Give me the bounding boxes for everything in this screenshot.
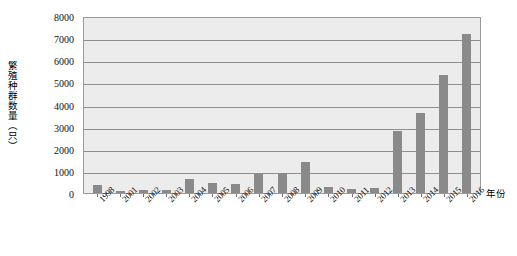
bar-slot: [432, 18, 455, 193]
bar-slot: [201, 18, 224, 193]
bar: [278, 173, 287, 193]
bar-slot: [363, 18, 386, 193]
bar: [393, 131, 402, 193]
y-axis-tick-label: 4000: [54, 100, 74, 111]
bar: [347, 189, 356, 193]
bar-slot: [294, 18, 317, 193]
y-axis-tick-label: 5000: [54, 78, 74, 89]
y-axis-tick-label: 2000: [54, 144, 74, 155]
y-axis-tick-label: 0: [69, 189, 74, 200]
bar-slot: [271, 18, 294, 193]
x-axis-tick-labels: 1998200120022003200420052006200720082009…: [83, 194, 481, 244]
chart-figure: 繁殖种群数量（只） 010002000300040005000600070008…: [0, 0, 517, 256]
bar: [254, 174, 263, 193]
plot-area: [83, 17, 481, 194]
y-axis-tick-label: 1000: [54, 166, 74, 177]
bar-slot: [409, 18, 432, 193]
bar: [231, 184, 240, 193]
bar-slot: [178, 18, 201, 193]
bar: [439, 75, 448, 193]
bar: [416, 113, 425, 193]
bar: [301, 162, 310, 193]
y-axis-title: 繁殖种群数量（只）: [4, 18, 20, 193]
bar-slot: [340, 18, 363, 193]
bar-slot: [155, 18, 178, 193]
bar-slot: [109, 18, 132, 193]
y-axis-tick-label: 8000: [54, 12, 74, 23]
y-axis-tick-labels: 010002000300040005000600070008000: [22, 0, 78, 256]
bar-slot: [224, 18, 247, 193]
bar-series: [84, 18, 480, 193]
bar-slot: [386, 18, 409, 193]
bar: [370, 188, 379, 193]
bar-slot: [455, 18, 478, 193]
bar: [462, 34, 471, 193]
bar-slot: [132, 18, 155, 193]
y-axis-tick-label: 7000: [54, 34, 74, 45]
bar: [185, 179, 194, 193]
bar-slot: [247, 18, 270, 193]
y-axis-tick-label: 6000: [54, 56, 74, 67]
bar-slot: [317, 18, 340, 193]
x-axis-title: 年份: [486, 186, 506, 200]
y-axis-tick-label: 3000: [54, 122, 74, 133]
bar-slot: [86, 18, 109, 193]
